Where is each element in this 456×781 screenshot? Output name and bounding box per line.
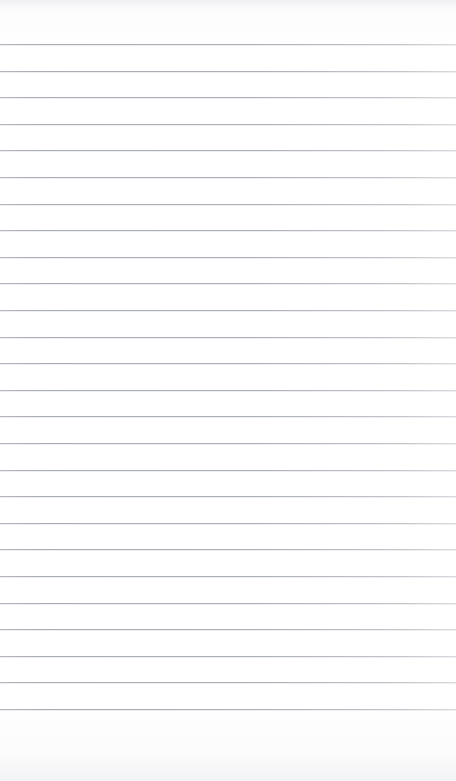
- ruled-paper-page: [0, 0, 456, 781]
- writing-area[interactable]: [0, 44, 456, 723]
